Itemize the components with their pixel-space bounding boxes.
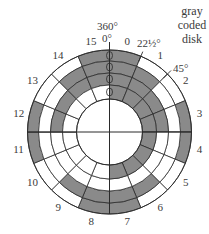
sector-label-9: 9 (55, 202, 61, 213)
sector-label-5: 5 (183, 177, 189, 188)
sector-label-13: 13 (27, 75, 38, 86)
angle-label-22-5: 22½° (137, 38, 161, 49)
angle-label-45: 45° (173, 63, 188, 74)
sector-label-0: 0 (124, 36, 130, 47)
angle-label-0: 0° (102, 33, 112, 44)
sector-label-8: 8 (89, 216, 95, 227)
sector-label-7: 7 (124, 216, 130, 227)
title-line-3: disk (172, 32, 209, 46)
sector-label-12: 12 (13, 108, 24, 119)
title-line-1: gray (172, 4, 209, 18)
sector-label-14: 14 (52, 50, 63, 61)
angle-label-360: 360° (97, 21, 118, 32)
diagram-title: gray coded disk (172, 4, 209, 46)
sector-label-15: 15 (86, 36, 97, 47)
title-line-2: coded (172, 18, 209, 32)
sector-label-11: 11 (13, 144, 24, 155)
sector-label-3: 3 (197, 108, 203, 119)
sector-label-10: 10 (27, 177, 38, 188)
sector-label-2: 2 (183, 75, 189, 86)
sector-label-4: 4 (197, 144, 203, 155)
sector-label-6: 6 (158, 202, 164, 213)
sector-label-1: 1 (158, 50, 164, 61)
